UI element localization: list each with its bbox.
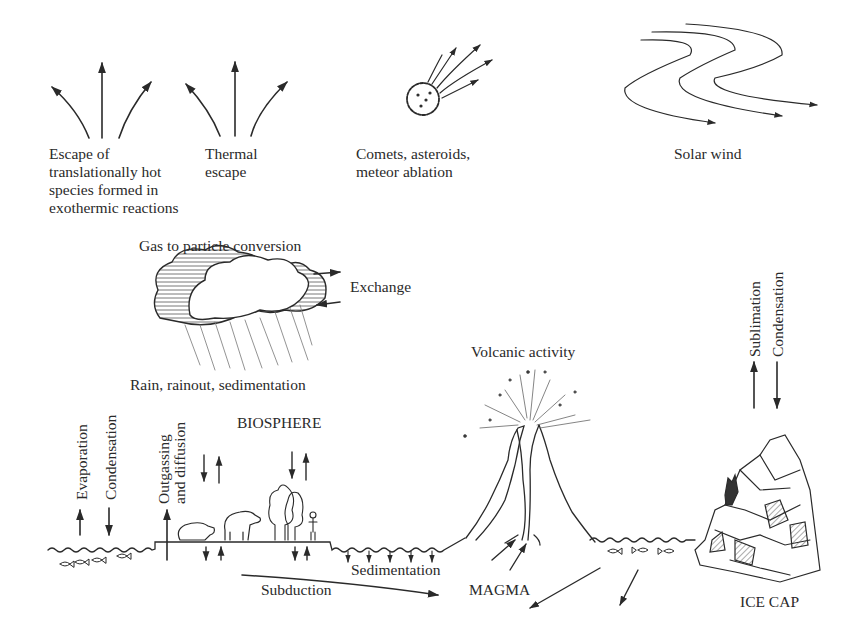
label-line: species formed in — [49, 181, 179, 199]
label-line: Comets, asteroids, — [356, 145, 470, 163]
label-line: Escape of — [49, 145, 179, 163]
ice-cap-label: ICE CAP — [740, 593, 799, 611]
label-line: Solar wind — [674, 145, 742, 163]
evaporation-label: Evaporation — [73, 424, 91, 500]
label-line: Thermal — [205, 145, 258, 163]
escape-hot-arrows-icon — [52, 63, 151, 138]
cloud-icon — [154, 245, 326, 324]
eruption-icon — [464, 370, 591, 438]
thermal-escape-label: Thermal escape — [205, 145, 258, 181]
label-line: escape — [205, 163, 258, 181]
person-icon — [309, 512, 317, 540]
ground-line — [48, 538, 695, 552]
gas-to-particle-label: Gas to particle conversion — [139, 237, 301, 255]
solar-wind-icon — [625, 24, 817, 123]
thermal-escape-arrows-icon — [186, 62, 287, 136]
comets-label: Comets, asteroids, meteor ablation — [356, 145, 470, 181]
trees-icon — [269, 485, 303, 540]
diagram-artwork — [0, 0, 861, 642]
sheep-icon — [178, 511, 260, 540]
condensation-right-label: Condensation — [769, 272, 787, 357]
exchange-right-arrow-icon — [314, 272, 340, 274]
label-line: meteor ablation — [356, 163, 470, 181]
solar-wind-label: Solar wind — [674, 145, 742, 163]
sublimation-label: Sublimation — [746, 281, 764, 357]
label-line: translationally hot — [49, 163, 179, 181]
escape-hot-label: Escape of translationally hot species fo… — [49, 145, 179, 217]
subduction-label: Subduction — [261, 581, 332, 599]
exchange-label: Exchange — [350, 278, 411, 296]
volcano-icon — [466, 425, 595, 545]
volcanic-activity-label: Volcanic activity — [471, 343, 575, 361]
ice-cap-icon — [695, 435, 820, 582]
sedimentation-label: Sedimentation — [351, 561, 441, 579]
biosphere-label: BIOSPHERE — [237, 414, 321, 432]
label-line: exothermic reactions — [49, 199, 179, 217]
outgassing-label-line2: and diffusion — [171, 422, 189, 504]
biosphere-arrows-icon — [204, 452, 307, 560]
rain-label: Rain, rainout, sedimentation — [130, 376, 306, 394]
comet-icon — [407, 45, 492, 115]
condensation-left-label: Condensation — [102, 415, 120, 500]
magma-label: MAGMA — [469, 581, 530, 599]
